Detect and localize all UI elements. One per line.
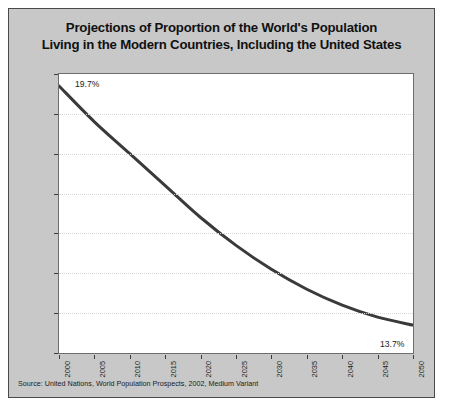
x-axis-tick-label: 2010 [133,361,142,377]
x-axis-tick-label: 2030 [275,361,284,377]
x-axis-tick-mark [201,355,202,359]
x-axis-tick-mark [236,355,237,359]
data-line-svg [59,74,413,353]
data-label-end: 13.7% [380,339,404,349]
source-note: Source: United Nations, World Population… [18,379,258,388]
y-axis-tick-mark [54,233,58,234]
x-axis-tick-label: 2035 [310,361,319,377]
x-axis-tick-label: 2005 [98,361,107,377]
chart-title: Projections of Proportion of the World's… [9,19,434,53]
x-axis-tick-label: 2045 [381,361,390,377]
x-axis-tick-mark [165,355,166,359]
data-label-start: 19.7% [75,79,99,89]
x-axis-tick-mark [94,355,95,359]
chart-panel: Projections of Proportion of the World's… [8,8,435,398]
x-axis-tick-label: 2025 [240,361,249,377]
x-axis-tick-label: 2015 [169,361,178,377]
x-axis-tick-mark [307,355,308,359]
x-axis-tick-mark [378,355,379,359]
x-axis-tick-mark [271,355,272,359]
x-axis-tick-label: 2020 [204,361,213,377]
x-axis-tick-label: 2050 [417,361,426,377]
y-axis-tick-mark [54,194,58,195]
y-axis-tick-mark [54,154,58,155]
gridline [59,273,413,274]
gridline [59,313,413,314]
gridline [59,233,413,234]
plot-inner [59,74,413,353]
chart-title-line-1: Projections of Proportion of the World's… [9,19,434,36]
x-axis-tick-mark [413,355,414,359]
x-axis-tick-mark [342,355,343,359]
y-axis-tick-mark [54,74,58,75]
x-axis-tick-label: 2000 [63,361,72,377]
y-axis-tick-mark [54,313,58,314]
y-axis-tick-mark [54,273,58,274]
gridline [59,194,413,195]
population-projection-line [59,86,413,325]
gridline [59,154,413,155]
chart-title-line-2: Living in the Modern Countries, Includin… [9,36,434,53]
x-axis-tick-mark [59,355,60,359]
plot-area [58,73,414,354]
x-axis-tick-mark [130,355,131,359]
y-axis-tick-mark [54,353,58,354]
x-axis-tick-label: 2040 [346,361,355,377]
gridline [59,114,413,115]
y-axis-tick-mark [54,114,58,115]
